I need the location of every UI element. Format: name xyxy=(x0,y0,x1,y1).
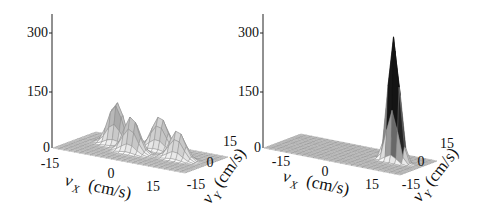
plot-right: 300 150 0 -15 0 15 v X (cm/s) 15 0 -15 v… xyxy=(238,14,465,207)
y-tick-label-0: 0 xyxy=(207,155,214,170)
x-tick-label-15: 15 xyxy=(146,179,160,194)
svg-text:(cm/s): (cm/s) xyxy=(209,144,249,190)
surface-wireframe xyxy=(53,103,228,173)
svg-text:(cm/s): (cm/s) xyxy=(87,175,133,203)
z-tick-label-300: 300 xyxy=(27,25,48,40)
svg-text:X: X xyxy=(288,178,299,192)
figure: 300 150 0 -15 0 15 v X (cm/s) 15 0 -15 v… xyxy=(0,0,485,214)
plot-left: 300 150 0 -15 0 15 v X (cm/s) 15 0 -15 v… xyxy=(27,14,252,209)
z-tick-label-150: 150 xyxy=(27,84,48,99)
y-tick-label-0: 0 xyxy=(418,154,425,169)
x-axis-label: v X (cm/s) xyxy=(63,170,134,206)
x-tick-label-15: 15 xyxy=(365,177,379,192)
x-axis-label: v X (cm/s) xyxy=(281,166,352,202)
z-tick-label-300: 300 xyxy=(238,25,259,40)
z-tick-label-0: 0 xyxy=(43,140,50,155)
svg-text:X: X xyxy=(70,182,81,196)
z-tick-label-150: 150 xyxy=(238,84,259,99)
x-tick-label-neg15: -15 xyxy=(41,156,60,171)
svg-text:(cm/s): (cm/s) xyxy=(305,171,351,199)
z-tick-label-0: 0 xyxy=(254,140,261,155)
y-tick-label-neg15: -15 xyxy=(187,177,206,192)
svg-text:(cm/s): (cm/s) xyxy=(420,144,462,190)
